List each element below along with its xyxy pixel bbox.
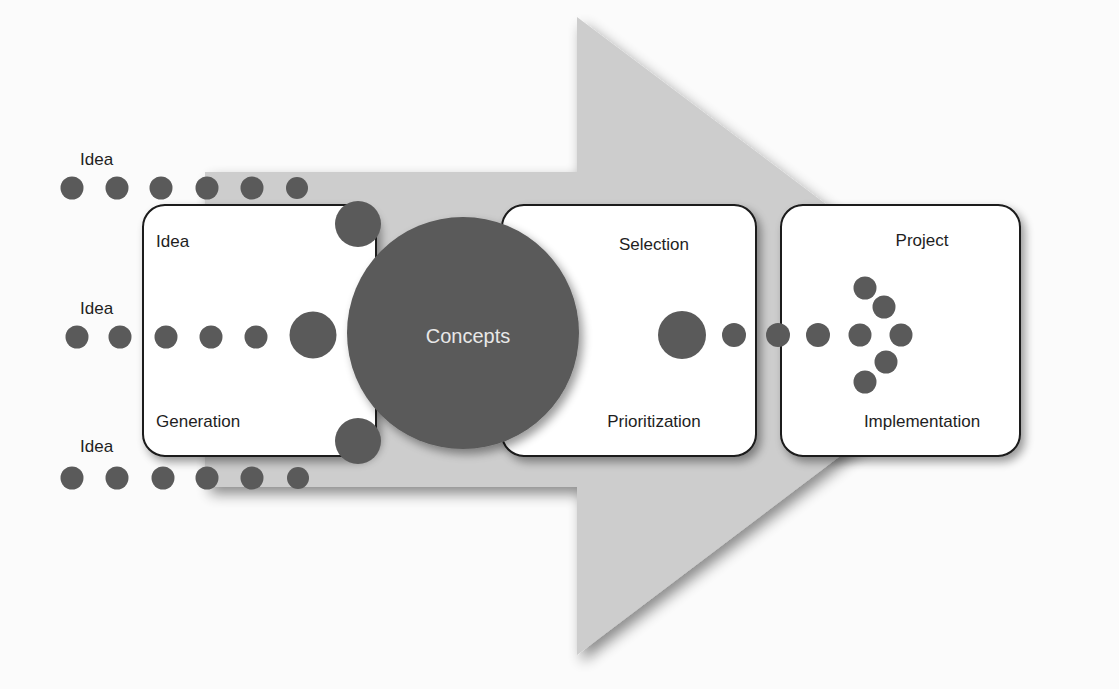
stage-implementation-label: Implementation <box>864 412 980 432</box>
idea-input-label-bottom: Idea <box>80 437 113 457</box>
stage-prioritization-label: Prioritization <box>607 412 701 432</box>
innovation-funnel-diagram <box>0 0 1119 689</box>
stage-project-label: Project <box>896 231 949 251</box>
idea-input-label-top: Idea <box>80 150 113 170</box>
concepts-label: Concepts <box>426 325 511 348</box>
stage-selection-label: Selection <box>619 235 689 255</box>
stage-idea-label: Idea <box>156 232 189 252</box>
stage-generation-label: Generation <box>156 412 240 432</box>
idea-input-label-middle: Idea <box>80 299 113 319</box>
